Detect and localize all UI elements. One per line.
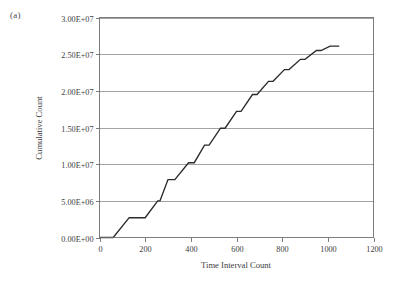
x-tick-labels-group: 020040060080010001200 bbox=[98, 245, 382, 254]
x-tick-label-0: 0 bbox=[98, 245, 102, 254]
x-tick-label-2: 400 bbox=[185, 245, 197, 254]
y-tick-marks-group bbox=[96, 19, 100, 239]
cumulative-count-line-chart: 0.00E+005.00E+061.00E+071.50E+072.00E+07… bbox=[0, 0, 406, 281]
y-tick-label-5: 2.50E+07 bbox=[61, 51, 93, 60]
y-tick-label-3: 1.50E+07 bbox=[61, 125, 93, 134]
x-tick-label-5: 1000 bbox=[320, 245, 336, 254]
x-tick-label-3: 600 bbox=[231, 245, 243, 254]
x-tick-label-6: 1200 bbox=[366, 245, 382, 254]
plot-frame bbox=[100, 18, 374, 238]
y-axis-title: Cumulative Count bbox=[34, 96, 44, 160]
y-tick-label-1: 5.00E+06 bbox=[61, 198, 93, 207]
y-tick-label-2: 1.00E+07 bbox=[61, 161, 93, 170]
x-tick-label-4: 800 bbox=[276, 245, 288, 254]
series-group bbox=[100, 46, 340, 237]
y-tick-labels-group: 0.00E+005.00E+061.00E+071.50E+072.00E+07… bbox=[61, 15, 93, 244]
y-tick-label-4: 2.00E+07 bbox=[61, 88, 93, 97]
y-tick-label-0: 0.00E+00 bbox=[61, 235, 93, 244]
x-tick-label-1: 200 bbox=[139, 245, 151, 254]
x-tick-marks-group bbox=[101, 238, 375, 242]
x-axis-title: Time Interval Count bbox=[201, 260, 271, 270]
y-tick-label-6: 3.00E+07 bbox=[61, 15, 93, 24]
figure-panel: (a) 0.00E+005.00E+061.00E+071.50E+072.00… bbox=[0, 0, 406, 281]
series-line-0 bbox=[100, 46, 340, 237]
